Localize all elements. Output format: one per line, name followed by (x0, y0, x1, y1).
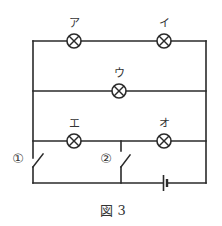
lamp-i: イ (157, 17, 171, 48)
lamp-i-label: イ (159, 17, 170, 30)
switch-2-label: ② (100, 151, 112, 166)
lamp-a: ア (67, 17, 81, 48)
switch-2 (121, 141, 130, 183)
lamp-o-label: オ (159, 117, 170, 130)
switch-1 (33, 154, 43, 183)
lamp-u-label: ウ (114, 67, 125, 80)
switch-1-label: ① (12, 151, 24, 166)
lamp-u: ウ (112, 67, 126, 98)
switch-1-blade (33, 154, 43, 167)
figure-caption: 図 3 (100, 203, 125, 218)
lamp-e: エ (67, 117, 81, 148)
battery-icon (164, 175, 168, 191)
lamp-a-label: ア (69, 17, 80, 30)
lamp-o: オ (157, 117, 171, 148)
lamp-e-label: エ (69, 117, 80, 130)
switch-2-blade (121, 155, 130, 167)
circuit-diagram: ア イ ウ エ オ ① ② 図 3 (0, 0, 222, 226)
